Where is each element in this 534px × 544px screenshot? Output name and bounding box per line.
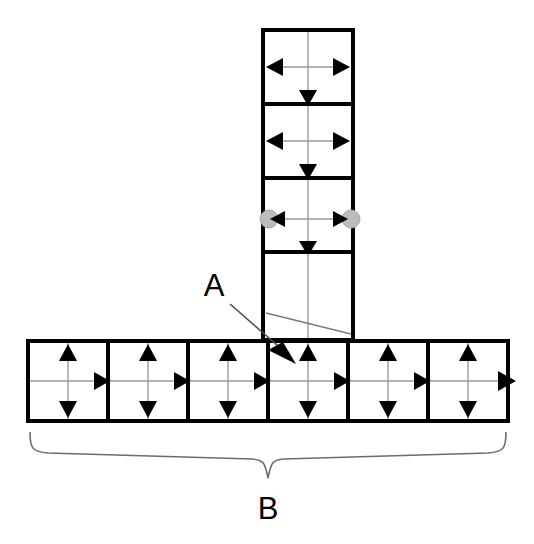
callout-a-label: A — [204, 268, 225, 303]
row-cell-1 — [108, 341, 190, 421]
column-cell-1 — [263, 104, 353, 180]
row-cell-5 — [428, 341, 516, 421]
callout-b-brace — [30, 432, 506, 478]
technical-diagram-canvas: A B — [0, 0, 534, 544]
callout-b-label: B — [258, 491, 279, 526]
row-cell-4 — [348, 341, 430, 421]
column-cell-3 — [263, 252, 353, 340]
row-cell-0 — [28, 341, 110, 421]
row-cell-2 — [188, 341, 270, 421]
column-cell-0 — [263, 30, 353, 106]
vertical-column-group — [260, 30, 360, 340]
horizontal-row-group — [28, 341, 516, 421]
diagram-root: A B — [0, 0, 534, 544]
callout-b-group: B — [30, 432, 506, 526]
